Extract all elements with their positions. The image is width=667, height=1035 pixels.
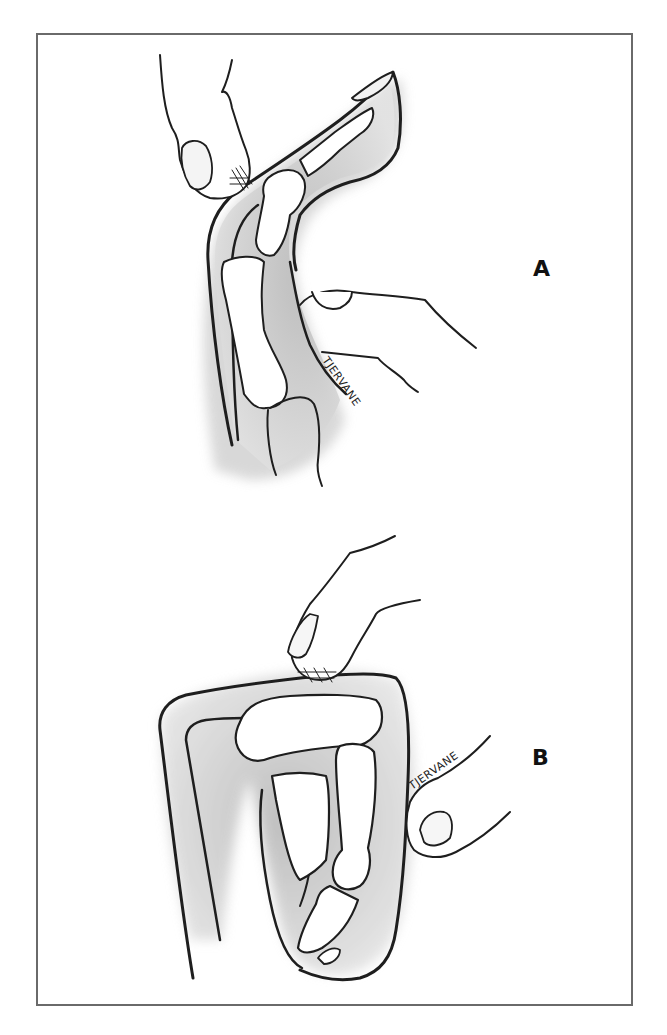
panel-label-b: B (532, 745, 549, 770)
finger-examination-illustration: TJERVANE (0, 0, 667, 1035)
panel-label-a: A (533, 256, 550, 281)
panel-a-drawing: TJERVANE (160, 55, 476, 486)
panel-b-drawing: TJERVANE (160, 536, 510, 980)
